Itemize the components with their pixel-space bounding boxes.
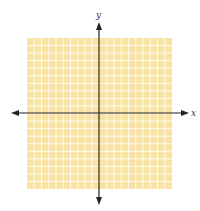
x-axis-right-arrow-icon xyxy=(181,110,189,116)
x-axis-label: x xyxy=(191,108,196,118)
y-axis-down-arrow-icon xyxy=(96,197,102,205)
y-axis-up-arrow-icon xyxy=(96,22,102,30)
x-axis-left-arrow-icon xyxy=(11,110,19,116)
y-axis-label: y xyxy=(95,10,102,20)
coordinate-plane: x y xyxy=(0,0,200,211)
